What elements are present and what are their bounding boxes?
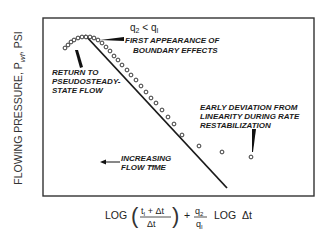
data-point	[249, 155, 253, 159]
increasing-flow-time-label: INCREASING FLOW TIME	[121, 154, 173, 172]
data-point	[80, 35, 84, 39]
svg-text:FLOWING PRESSURE, Pwf, PSI: FLOWING PRESSURE, Pwf, PSI	[12, 31, 27, 184]
data-point	[76, 36, 80, 40]
pressure-buildup-diagram: FLOWING PRESSURE, Pwf, PSI q2 < qI FIRST…	[0, 0, 330, 238]
data-point	[96, 38, 100, 42]
svg-text:q2: q2	[195, 206, 204, 217]
data-point	[180, 133, 184, 137]
svg-text:qI: qI	[196, 219, 203, 230]
data-point	[63, 46, 67, 50]
first-appearance-label: FIRST APPEARANCE OF BOUNDARY EFFECTS	[125, 36, 222, 55]
svg-text:LOG: LOG	[105, 209, 127, 221]
data-point	[149, 96, 153, 100]
data-point	[144, 90, 148, 94]
data-point	[100, 41, 104, 45]
data-point	[134, 78, 138, 82]
data-point	[66, 43, 70, 47]
svg-text:+: +	[184, 209, 190, 221]
data-point	[92, 36, 96, 40]
data-point	[84, 35, 88, 39]
rate-condition-label: q2 < qI	[130, 22, 158, 34]
return-pseudo-pointer	[75, 50, 83, 68]
data-point	[220, 150, 224, 154]
x-axis-label: LOG ( tI + Δt Δt ) + q2 qI LOG Δt	[105, 203, 252, 230]
data-point	[125, 68, 129, 72]
return-pseudo-label: RETURN TO PSEUDOSTEADY- STATE FLOW	[52, 68, 123, 95]
data-point	[120, 63, 124, 67]
data-point	[72, 38, 76, 42]
data-point	[139, 84, 143, 88]
data-point	[154, 101, 158, 105]
svg-text:Δt: Δt	[147, 219, 156, 229]
early-deviation-label: EARLY DEVIATION FROM LINEARITY DURING RA…	[200, 103, 302, 130]
data-point	[108, 49, 112, 53]
data-point	[104, 45, 108, 49]
data-point	[112, 54, 116, 58]
svg-text:(: (	[131, 203, 139, 228]
data-point	[129, 73, 133, 77]
data-point	[166, 115, 170, 119]
y-axis-label: FLOWING PRESSURE, Pwf, PSI	[12, 31, 27, 184]
data-point	[88, 35, 92, 39]
data-point	[172, 122, 176, 126]
first-appearance-pointer	[100, 37, 124, 41]
data-point	[116, 58, 120, 62]
early-deviation-pointer	[252, 129, 256, 152]
data-point	[160, 108, 164, 112]
svg-text:LOG Δt: LOG Δt	[214, 209, 252, 221]
svg-text:tI + Δt: tI + Δt	[141, 206, 164, 217]
data-point	[197, 144, 201, 148]
svg-text:): )	[172, 203, 179, 228]
